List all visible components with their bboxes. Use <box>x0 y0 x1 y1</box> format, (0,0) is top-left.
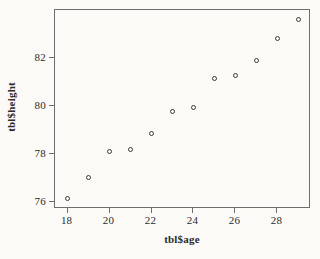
plot-data-area <box>55 10 309 207</box>
x-axis-tick-label: 26 <box>214 214 254 227</box>
y-axis-tick <box>49 201 54 202</box>
data-point <box>170 109 175 114</box>
x-axis-tick-label: 20 <box>89 214 129 227</box>
x-axis-tick-label: 22 <box>131 214 171 227</box>
y-axis-tick <box>49 57 54 58</box>
data-point <box>254 58 259 63</box>
x-axis-tick-label: 28 <box>256 214 296 227</box>
x-axis-tick <box>109 208 110 213</box>
x-axis-tick <box>276 208 277 213</box>
y-axis-label: tbl$height <box>5 67 17 147</box>
data-point <box>191 105 196 110</box>
y-axis-tick <box>49 105 54 106</box>
scatter-plot-screenshot: 182022242628 76788082 tbl$age tbl$height <box>0 0 320 259</box>
x-axis-tick <box>192 208 193 213</box>
data-point <box>296 17 301 22</box>
data-point <box>86 175 91 180</box>
y-axis-tick-label: 78 <box>13 147 46 159</box>
x-axis-tick <box>234 208 235 213</box>
y-axis-tick-label: 82 <box>13 51 46 63</box>
x-axis-tick <box>67 208 68 213</box>
data-point <box>128 147 133 152</box>
data-point <box>149 131 154 136</box>
data-point <box>233 73 238 78</box>
y-axis-tick <box>49 153 54 154</box>
x-axis-tick-label: 18 <box>47 214 87 227</box>
data-point <box>275 36 280 41</box>
data-point <box>107 149 112 154</box>
plot-panel-border <box>54 9 310 208</box>
x-axis-tick-label: 24 <box>172 214 212 227</box>
x-axis-tick <box>151 208 152 213</box>
y-axis-tick-label: 76 <box>13 195 46 207</box>
x-axis-label: tbl$age <box>54 233 310 245</box>
data-point <box>65 196 70 201</box>
data-point <box>212 76 217 81</box>
y-axis-tick-label: 80 <box>13 99 46 111</box>
